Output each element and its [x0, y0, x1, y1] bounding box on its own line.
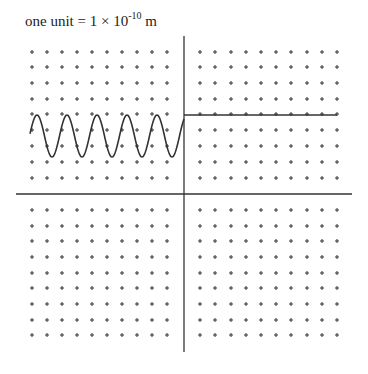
grid-plus-marker [60, 302, 64, 306]
grid-plus-marker [259, 208, 263, 212]
grid-plus-marker [259, 239, 263, 243]
grid-plus-marker [274, 239, 278, 243]
grid-plus-marker [305, 302, 309, 306]
grid-plus-marker [45, 224, 49, 228]
grid-plus-marker [229, 160, 233, 164]
grid-plus-marker [213, 144, 217, 148]
grid-plus-marker [90, 176, 94, 180]
grid-plus-marker [213, 286, 217, 290]
grid-plus-marker [229, 208, 233, 212]
grid-plus-marker [120, 318, 124, 322]
grid-plus-marker [45, 50, 49, 54]
grid-plus-marker [120, 81, 124, 85]
grid-plus-marker [75, 333, 79, 337]
grid-plus-marker [135, 176, 139, 180]
grid-plus-marker [165, 318, 169, 322]
grid-plus-marker [244, 208, 248, 212]
grid-plus-marker [198, 65, 202, 69]
grid-plus-marker [335, 208, 339, 212]
grid-plus-marker [150, 271, 154, 275]
grid-plus-marker [60, 255, 64, 259]
grid-plus-marker [135, 318, 139, 322]
grid-plus-marker [305, 286, 309, 290]
grid-plus-marker [289, 255, 293, 259]
grid-plus-marker [30, 144, 34, 148]
grid-plus-marker [289, 208, 293, 212]
grid-plus-marker [60, 271, 64, 275]
grid-plus-marker [289, 176, 293, 180]
grid-plus-marker [274, 333, 278, 337]
grid-plus-marker [165, 160, 169, 164]
grid-plus-marker [213, 81, 217, 85]
grid-plus-marker [259, 286, 263, 290]
grid-plus-marker [75, 81, 79, 85]
grid-plus-marker [150, 65, 154, 69]
grid-plus-marker [75, 239, 79, 243]
grid-plus-marker [150, 81, 154, 85]
grid-plus-marker [45, 302, 49, 306]
grid-plus-marker [335, 333, 339, 337]
grid-plus-marker [165, 65, 169, 69]
grid-plus-marker [320, 50, 324, 54]
grid-plus-marker [229, 271, 233, 275]
grid-plus-marker [75, 318, 79, 322]
grid-plus-marker [289, 50, 293, 54]
grid-plus-marker [274, 97, 278, 101]
grid-plus-marker [198, 286, 202, 290]
grid-plus-marker [213, 239, 217, 243]
grid-plus-marker [213, 128, 217, 132]
grid-plus-marker [259, 271, 263, 275]
grid-plus-marker [105, 176, 109, 180]
grid-plus-marker [165, 208, 169, 212]
grid-plus-marker [120, 255, 124, 259]
grid-plus-marker [45, 208, 49, 212]
grid-plus-marker [135, 160, 139, 164]
grid-plus-marker [135, 128, 139, 132]
grid-plus-marker [335, 271, 339, 275]
grid-plus-marker [213, 65, 217, 69]
grid-plus-marker [244, 144, 248, 148]
grid-plus-marker [320, 224, 324, 228]
grid-plus-marker [305, 65, 309, 69]
grid-plus-marker [274, 81, 278, 85]
grid-plus-marker [135, 302, 139, 306]
grid-plus-marker [198, 255, 202, 259]
grid-plus-marker [198, 224, 202, 228]
grid-plus-marker [305, 239, 309, 243]
grid-plus-marker [30, 112, 34, 116]
grid-plus-marker [30, 239, 34, 243]
grid-plus-marker [259, 97, 263, 101]
grid-plus-marker [135, 65, 139, 69]
grid-plus-marker [90, 239, 94, 243]
grid-plus-marker [320, 65, 324, 69]
grid-plus-marker [165, 112, 169, 116]
grid-plus-marker [30, 65, 34, 69]
grid-plus-marker [105, 128, 109, 132]
grid-plus-marker [135, 333, 139, 337]
grid-plus-marker [105, 239, 109, 243]
grid-plus-marker [90, 112, 94, 116]
grid-plus-marker [45, 112, 49, 116]
grid-plus-marker [60, 81, 64, 85]
grid-plus-marker [274, 318, 278, 322]
grid-plus-marker [198, 271, 202, 275]
grid-plus-marker [259, 65, 263, 69]
grid-plus-marker [289, 239, 293, 243]
grid-plus-marker [244, 50, 248, 54]
grid-plus-marker [198, 239, 202, 243]
grid-plus-marker [320, 286, 324, 290]
grid-plus-marker [120, 302, 124, 306]
grid-plus-marker [229, 286, 233, 290]
grid-plus-marker [90, 286, 94, 290]
grid-plus-marker [165, 255, 169, 259]
grid-plus-marker [320, 208, 324, 212]
grid-plus-marker [90, 255, 94, 259]
grid-plus-marker [289, 224, 293, 228]
grid-plus-marker [259, 333, 263, 337]
grid-plus-marker [229, 302, 233, 306]
grid-plus-marker [198, 208, 202, 212]
grid-plus-marker [120, 208, 124, 212]
grid-plus-marker [135, 97, 139, 101]
grid-plus-marker [150, 239, 154, 243]
grid-plus-marker [335, 160, 339, 164]
